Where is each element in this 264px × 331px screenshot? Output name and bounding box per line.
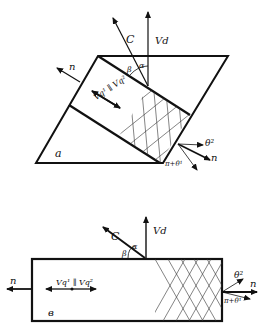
label-beta-b: β	[121, 249, 127, 258]
label-c-a: C	[126, 33, 135, 46]
label-velocity-a: Vq¹ ∥ Vq²	[92, 74, 128, 102]
panel-label-a: a	[55, 147, 62, 160]
diagram-canvas: C Vd β α n Vq¹ ∥ Vq² θ² n π+θ¹ a	[0, 0, 264, 331]
figure-a: C Vd β α n Vq¹ ∥ Vq² θ² n π+θ¹ a	[36, 12, 230, 180]
theta2-ray-b	[222, 279, 243, 292]
panel-label-b: в	[48, 307, 54, 318]
label-vd-b: Vd	[153, 225, 167, 236]
label-vd-a: Vd	[155, 35, 169, 46]
label-c-b: C	[111, 230, 120, 243]
label-n-left-b: n	[10, 275, 16, 286]
velocity-point-b	[71, 288, 74, 291]
label-beta-a: β	[126, 65, 132, 74]
label-theta2-a: θ²	[205, 138, 214, 148]
label-pitheta-a: π+θ¹	[164, 160, 183, 168]
label-pitheta-b: π+θ¹	[223, 297, 242, 305]
label-n-right-a: n	[211, 152, 217, 163]
label-n-right-b: n	[250, 278, 256, 289]
label-theta2-b: θ²	[234, 270, 243, 280]
label-alpha-b: α	[132, 242, 138, 251]
strip-bottom-line-a	[69, 105, 160, 163]
label-alpha-a: α	[139, 61, 145, 70]
label-n-left-a: n	[69, 61, 75, 72]
hatched-region-b	[150, 259, 242, 321]
label-velocity-b: Vq¹ ∥ Vq²	[56, 278, 93, 287]
theta2-ray-a	[178, 144, 203, 145]
figure-b: C Vd β α n Vq¹ ∥ Vq² θ² n π+θ¹ в	[7, 217, 257, 321]
